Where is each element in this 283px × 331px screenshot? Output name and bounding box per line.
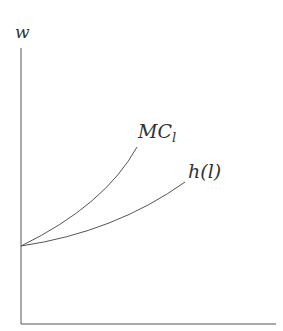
mc-curve xyxy=(21,147,137,246)
h-label: h(l) xyxy=(188,160,221,182)
diagram-canvas xyxy=(0,0,283,331)
h-curve xyxy=(21,182,185,246)
y-axis-label: w xyxy=(15,22,30,42)
mc-label-main: MC xyxy=(138,120,172,142)
mc-label: MCl xyxy=(138,120,176,145)
mc-label-subscript: l xyxy=(172,130,176,145)
